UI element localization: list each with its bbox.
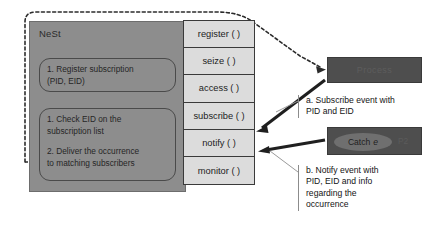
caption-line: PID, EID and info [306, 176, 438, 187]
caption-line: regarding the [306, 188, 438, 199]
dashed-loop-arrowhead [316, 66, 326, 73]
step-line: 2. Deliver the occurrence [47, 146, 168, 158]
method-notify[interactable]: notify ( ) [184, 130, 254, 157]
catch-event-symbol: e [373, 137, 378, 147]
step-line: (PID, EID) [47, 76, 168, 88]
step-paragraph: 1. Check EID on the subscription list [47, 114, 168, 137]
process-box-p1: Process [327, 57, 422, 83]
p2-to-notify-arrow [266, 140, 325, 150]
caption-line: a. Subscribe event with [306, 95, 438, 106]
caption-b-leader [270, 151, 298, 172]
method-stack: register ( ) seize ( ) access ( ) subscr… [183, 20, 255, 185]
catch-event-ellipse: Catch e [334, 133, 392, 151]
caption-subscribe-event: a. Subscribe event with PID and EID [298, 95, 438, 118]
method-register[interactable]: register ( ) [184, 21, 254, 48]
step-line: to matching subscribers [47, 158, 168, 170]
method-subscribe[interactable]: subscribe ( ) [184, 103, 254, 130]
method-access[interactable]: access ( ) [184, 75, 254, 102]
p1-to-subscribe-arrowhead [256, 126, 269, 134]
caption-line: PID and EID [306, 106, 438, 117]
catch-label: Catch [348, 137, 370, 147]
nest-label: NeSt [39, 28, 61, 39]
nest-step-check-and-deliver: 1. Check EID on the subscription list 2.… [39, 108, 176, 181]
caption-line: occurrence [306, 199, 438, 210]
step-line: 1. Check EID on the [47, 114, 168, 126]
nest-container: NeSt 1. Register subscription (PID, EID)… [29, 21, 186, 192]
step-paragraph: 2. Deliver the occurrence to matching su… [47, 146, 168, 169]
method-seize[interactable]: seize ( ) [184, 48, 254, 75]
step-line: 1. Register subscription [47, 64, 168, 76]
caption-notify-event: b. Notify event with PID, EID and info r… [298, 165, 438, 211]
process-box-p2: Catch e P2 [327, 127, 422, 155]
method-monitor[interactable]: monitor ( ) [184, 157, 254, 184]
nest-step-register-subscription: 1. Register subscription (PID, EID) [39, 58, 176, 92]
p2-to-notify-arrowhead [258, 146, 270, 154]
step-line: subscription list [47, 126, 168, 138]
process-p2-tag: P2 [398, 136, 408, 146]
diagram-canvas: NeSt 1. Register subscription (PID, EID)… [0, 0, 439, 238]
caption-line: b. Notify event with [306, 165, 438, 176]
process-p1-title: Process [328, 65, 421, 75]
caption-a-leader [276, 101, 298, 112]
